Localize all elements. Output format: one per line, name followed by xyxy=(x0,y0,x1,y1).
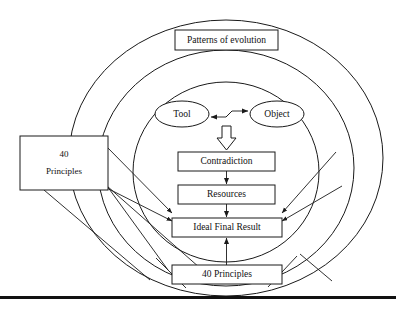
label-principles-left-line1: 40 xyxy=(60,149,70,159)
label-tool: Tool xyxy=(173,109,191,119)
label-principles-bottom: 40 Principles xyxy=(202,269,252,279)
diagram-canvas: Patterns of evolution Tool Object Contra… xyxy=(0,0,396,311)
block-arrow-down xyxy=(217,126,236,150)
arrow-right-upper-to-ifr xyxy=(282,152,336,213)
label-contradiction: Contradiction xyxy=(200,156,252,166)
arrow-tool-to-object xyxy=(226,111,248,117)
label-resources: Resources xyxy=(207,189,246,199)
label-object: Object xyxy=(264,109,290,119)
label-ideal-final-result: Ideal Final Result xyxy=(193,222,261,232)
label-principles-left-line2: Principles xyxy=(46,166,82,176)
arrow-left-upper-to-ifr xyxy=(107,147,172,213)
label-patterns-of-evolution: Patterns of evolution xyxy=(187,35,266,45)
triz-diagram: Patterns of evolution Tool Object Contra… xyxy=(0,0,396,311)
node-principles-left[interactable] xyxy=(20,136,108,190)
footer-rule xyxy=(0,296,396,299)
left-principles-fan-line-3 xyxy=(44,190,150,280)
